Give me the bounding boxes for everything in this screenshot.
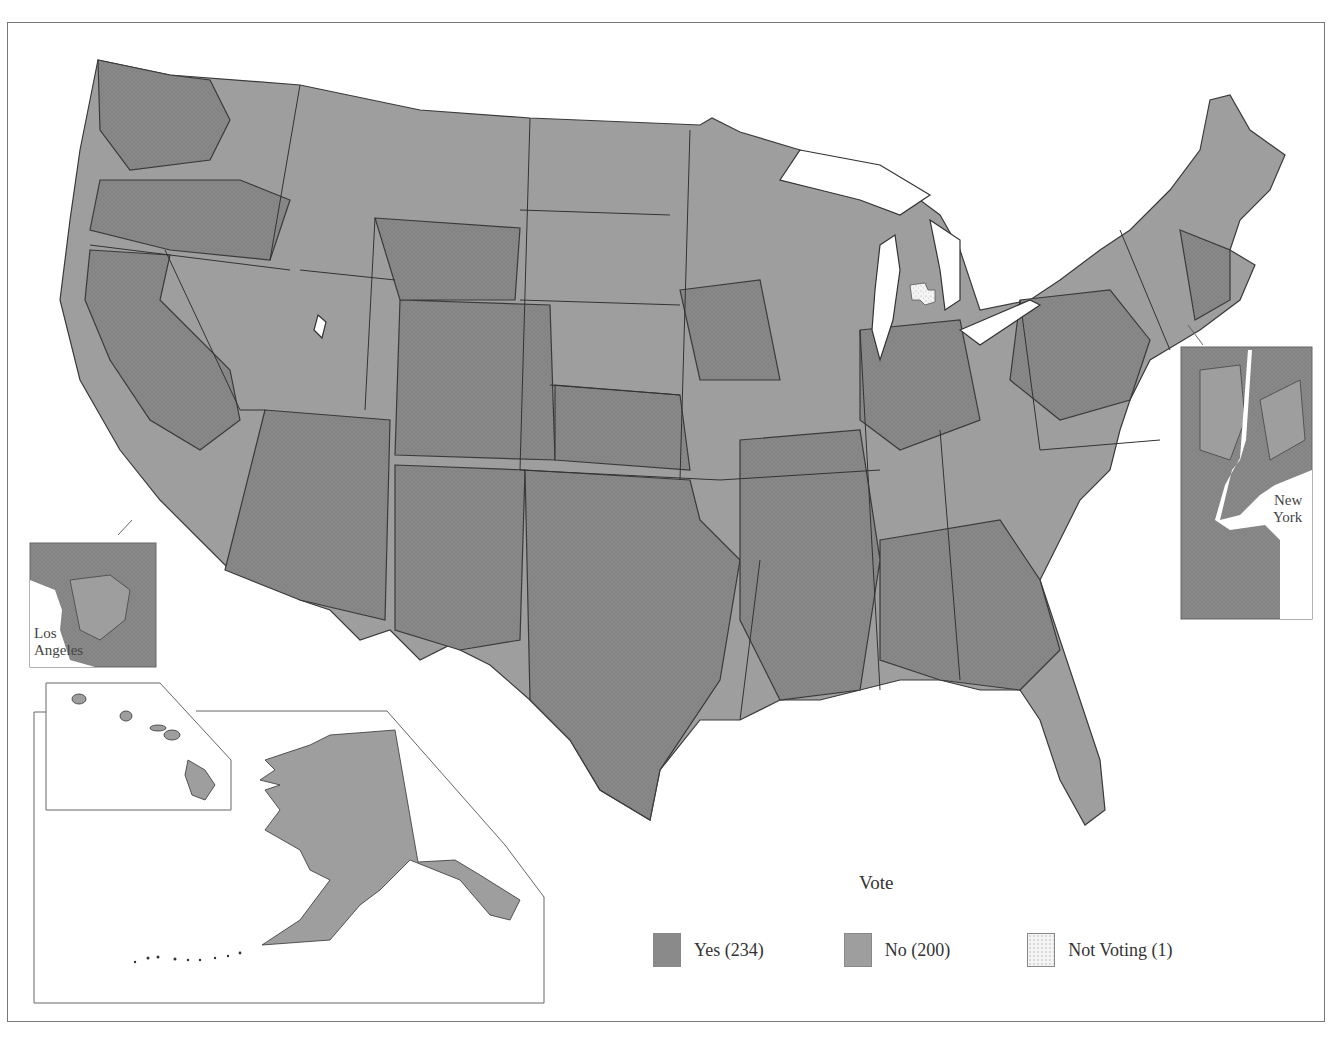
district-map: [0, 0, 1336, 1039]
hawaii: [72, 694, 215, 800]
yes-swatch: [653, 933, 681, 967]
no-swatch: [844, 933, 872, 967]
not-voting-swatch: [1027, 933, 1055, 967]
legend-item-yes: Yes (234): [653, 933, 764, 967]
los-angeles-label-line2: Angeles: [34, 642, 83, 659]
alaska: [260, 730, 520, 945]
legend-label-no: No (200): [885, 940, 951, 961]
new-york-label: New York: [1273, 492, 1302, 526]
legend-item-not-voting: Not Voting (1): [1027, 933, 1172, 967]
new-york-label-line1: New: [1273, 492, 1302, 509]
alaska-hawaii-inset: [34, 683, 544, 1003]
los-angeles-label-line1: Los: [34, 625, 83, 642]
los-angeles-label: Los Angeles: [34, 625, 83, 659]
aleutian-islands: [134, 952, 242, 964]
legend: Yes (234) No (200) Not Voting (1): [653, 933, 1222, 967]
legend-label-yes: Yes (234): [694, 940, 764, 961]
new-york-label-line2: York: [1273, 509, 1302, 526]
legend-title: Vote: [859, 872, 893, 894]
legend-item-no: No (200): [844, 933, 951, 967]
contiguous-us: [60, 60, 1285, 825]
new-york-inset: [1181, 325, 1312, 619]
legend-label-not-voting: Not Voting (1): [1068, 940, 1172, 961]
